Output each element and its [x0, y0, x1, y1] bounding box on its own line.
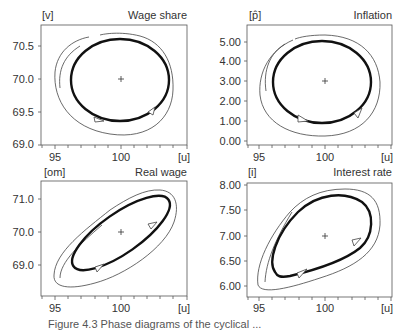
x-axis-unit-label: [u] [381, 151, 393, 163]
direction-arrow [95, 264, 104, 272]
limit-cycle [272, 195, 371, 276]
direction-arrow [352, 238, 361, 246]
x-axis-unit-label: [u] [381, 302, 393, 314]
y-axis [38, 199, 41, 265]
panel-real-wage: [om] Real wage 71.0 70.0 69.0 95 100 [u] [13, 166, 191, 314]
figure-caption: Figure 4.3 Phase diagrams of the cyclica… [48, 318, 261, 330]
plot-frame [41, 25, 187, 145]
x-tick-label: 100 [112, 151, 130, 163]
limit-cycle [273, 41, 371, 123]
y-tick-label: 6.50 [220, 255, 241, 267]
equilibrium-marker [118, 76, 124, 82]
y-axis-label: [v] [42, 9, 54, 21]
panel-title: Wage share [128, 9, 187, 21]
y-tick-label: 8.00 [220, 179, 241, 191]
x-tick-label: 95 [49, 151, 61, 163]
x-tick-label: 100 [316, 151, 334, 163]
y-tick-label: 7.50 [220, 204, 241, 216]
x-axis-unit-label: [u] [178, 302, 190, 314]
y-axis-label: [i] [248, 166, 257, 178]
y-tick-label: 2.00 [220, 95, 241, 107]
y-tick-label: 69.0 [13, 259, 34, 271]
y-tick-label: 70.5 [13, 40, 34, 52]
y-tick-label: 4.00 [220, 55, 241, 67]
y-tick-label: 5.00 [220, 36, 241, 48]
panel-wage-share: [v] Wage share 70.5 70.0 69.5 69.0 95 10… [13, 9, 191, 163]
y-axis [38, 46, 41, 145]
y-tick-label: 6.00 [220, 280, 241, 292]
y-tick-label: 3.00 [220, 75, 241, 87]
equilibrium-marker [322, 233, 328, 239]
x-tick-label: 100 [112, 302, 130, 314]
panel-title: Real wage [135, 166, 187, 178]
figure-canvas: [v] Wage share 70.5 70.0 69.5 69.0 95 10… [0, 0, 401, 330]
panel-title: Interest rate [333, 166, 392, 178]
y-tick-label: 70.0 [13, 226, 34, 238]
y-axis [244, 42, 247, 141]
y-tick-label: 1.00 [220, 115, 241, 127]
panel-interest-rate: [i] Interest rate 8.00 7.50 7.00 6.50 6.… [220, 166, 394, 314]
y-tick-label: 71.0 [13, 193, 34, 205]
x-axis [42, 145, 187, 149]
plot-frame [247, 183, 392, 297]
x-axis [248, 145, 391, 149]
x-tick-label: 100 [316, 302, 334, 314]
equilibrium-marker [118, 229, 124, 235]
equilibrium-marker [322, 78, 328, 84]
outer-trajectory [260, 35, 380, 136]
y-tick-label: 69.0 [13, 138, 34, 150]
outer-trajectory [54, 190, 177, 287]
x-axis [42, 296, 187, 300]
x-tick-label: 95 [253, 302, 265, 314]
direction-arrow [298, 115, 308, 122]
y-axis-label: [p̂] [249, 9, 261, 21]
x-tick-label: 95 [253, 151, 265, 163]
y-tick-label: 7.00 [220, 230, 241, 242]
y-tick-label: 69.5 [13, 106, 34, 118]
x-axis [248, 297, 391, 301]
y-axis [244, 185, 247, 286]
direction-arrow [297, 269, 307, 278]
x-axis-unit-label: [u] [178, 151, 190, 163]
panel-inflation: [p̂] Inflation 5.00 4.00 3.00 2.00 1.00 … [220, 9, 394, 163]
y-tick-label: 70.0 [13, 73, 34, 85]
y-tick-label: 0.00 [220, 135, 241, 147]
y-axis-label: [om] [44, 166, 65, 178]
x-tick-label: 95 [49, 302, 61, 314]
panel-title: Inflation [353, 9, 392, 21]
